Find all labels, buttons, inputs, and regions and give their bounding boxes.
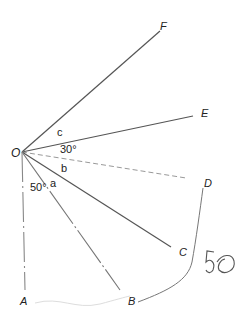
ray-OA	[22, 152, 25, 290]
ray-OC	[22, 152, 171, 247]
curve-A-to-B	[35, 296, 130, 306]
handwritten-50	[206, 251, 234, 273]
curve-B-to-D	[138, 188, 203, 302]
angle-label-50: 50°	[30, 181, 47, 193]
label-F: F	[160, 20, 168, 32]
label-B: B	[128, 295, 135, 307]
angle-label-b: b	[61, 162, 67, 174]
ray-OE	[22, 116, 193, 152]
ray-OB	[22, 152, 120, 290]
ray-OF	[22, 31, 160, 152]
label-O: O	[11, 146, 20, 160]
label-D: D	[204, 177, 212, 189]
ray-OD-dashed	[22, 152, 186, 178]
angle-label-a: a	[50, 177, 57, 189]
angle-label-30: 30°	[60, 143, 77, 155]
angle-diagram: O F E D C B A c 30° b a 50°	[0, 0, 248, 322]
label-A: A	[19, 295, 27, 307]
label-E: E	[201, 107, 209, 119]
label-C: C	[179, 246, 187, 258]
angle-label-c: c	[57, 126, 63, 138]
